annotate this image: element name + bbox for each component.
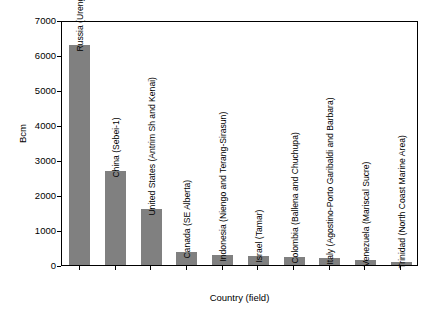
category-label: Trinidad (North Coast Marine Area) [398,135,407,268]
category-label: Russia (Urengoy) [77,0,86,51]
y-axis-tick-label: 7000 [16,16,56,26]
y-axis-tick-label: 2000 [16,191,56,201]
x-axis-tick-mark [222,266,223,270]
y-axis-tick-label: 6000 [16,51,56,61]
category-label: Colombia (Ballena and Chuchupa) [291,132,300,263]
x-axis-tick-mark [329,266,330,270]
y-axis-tick-label: 1000 [16,226,56,236]
y-axis-tick-label: 0 [16,261,56,271]
x-axis-tick-mark [186,266,187,270]
y-axis-tick-labels: 01000200030004000500060007000 [12,0,56,319]
bar [141,209,162,265]
x-axis-tick-mark [293,266,294,270]
category-label: Canada (SE Alberta) [184,180,193,259]
bar [105,171,126,266]
y-axis-tick-mark [57,266,61,267]
plot-area: Russia (Urengoy)China (Sebei-1)United St… [61,21,418,266]
category-label: Israel (Tamar) [255,210,264,263]
x-axis-tick-mark [257,266,258,270]
category-label: Italy (Agostino-Porto Garibaldi and Barb… [327,98,336,265]
category-label: Venezuela (Mariscal Sucre) [362,162,371,267]
bar [69,45,90,266]
x-axis-tick-mark [115,266,116,270]
category-label: China (Sebei-1) [112,117,121,177]
x-axis-label: Country (field) [61,292,418,303]
y-axis-tick-label: 5000 [16,86,56,96]
x-axis-tick-mark [79,266,80,270]
x-axis-tick-mark [150,266,151,270]
category-label: Indonesia (Niengo and Terang-Sirasun) [220,112,229,262]
y-axis-tick-label: 4000 [16,121,56,131]
x-axis-tick-mark [364,266,365,270]
y-axis-tick-label: 3000 [16,156,56,166]
bar-chart-figure: Bcm 01000200030004000500060007000 Russia… [0,0,438,319]
category-label: United States (Antrim Sh and Kenai) [148,77,157,216]
